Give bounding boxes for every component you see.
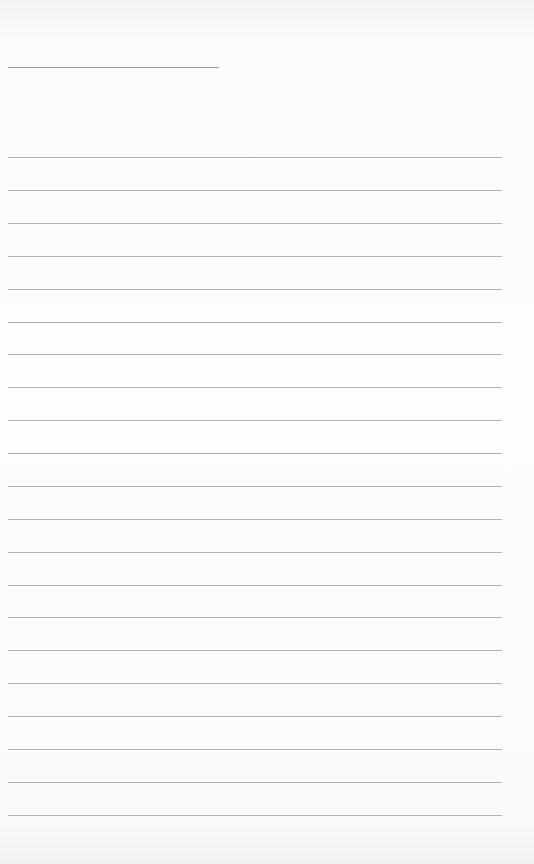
ruled-line [8,650,502,651]
ruled-line [8,453,502,454]
ruled-line [8,256,502,257]
ruled-line [8,519,502,520]
ruled-line [8,486,502,487]
ruled-line [8,782,502,783]
ruled-line [8,420,502,421]
header-name-line [8,67,219,68]
ruled-line [8,585,502,586]
ruled-line [8,190,502,191]
ruled-line [8,157,502,158]
ruled-line [8,289,502,290]
lined-paper-page [0,0,534,864]
ruled-line [8,716,502,717]
ruled-line [8,683,502,684]
ruled-line [8,387,502,388]
ruled-line [8,322,502,323]
ruled-line [8,552,502,553]
ruled-line [8,354,502,355]
ruled-line [8,815,502,816]
ruled-line [8,223,502,224]
ruled-line [8,749,502,750]
ruled-line [8,617,502,618]
